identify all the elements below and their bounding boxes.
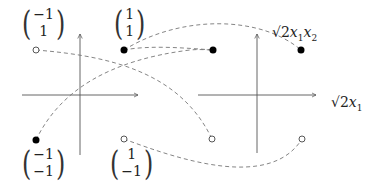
- x-axis-label: √2x1: [331, 94, 362, 113]
- vector-label-1-neg1: ( 1−1 ): [108, 146, 155, 180]
- point-open: [209, 136, 215, 142]
- left-axes: [22, 34, 138, 155]
- point-filled: [298, 47, 305, 54]
- point-filled: [33, 137, 40, 144]
- vector-label-neg1-neg1: ( −1−1 ): [20, 146, 67, 180]
- point-open: [299, 136, 305, 142]
- xor-kernel-diagram: ( −11 ) ( 11 ) ( −1−1 ) ( 1−1 ) √2x1x2 √…: [0, 0, 379, 195]
- point-open: [121, 136, 127, 142]
- vector-label-neg1-1: ( −11 ): [20, 6, 67, 40]
- vector-label-1-1: ( 11 ): [112, 6, 147, 40]
- point-open: [33, 47, 39, 53]
- point-filled: [210, 47, 217, 54]
- y-axis-label: √2x1x2: [272, 24, 317, 43]
- point-filled: [121, 47, 128, 54]
